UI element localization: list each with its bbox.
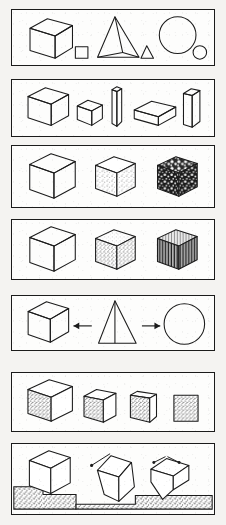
cube-step-3 bbox=[130, 391, 156, 422]
mottled-cube bbox=[158, 157, 198, 197]
panel-2 bbox=[11, 79, 215, 137]
panel-6 bbox=[11, 372, 215, 432]
upright-plate bbox=[183, 89, 199, 128]
small-circle bbox=[193, 46, 207, 60]
panel-7 bbox=[11, 443, 215, 515]
plain-cube bbox=[30, 227, 75, 271]
striated-cube bbox=[157, 230, 197, 270]
cube-step-4 bbox=[174, 395, 198, 421]
small-cube bbox=[77, 100, 102, 125]
panel-2-artwork bbox=[12, 80, 214, 136]
right-arrow bbox=[142, 323, 160, 330]
plain-cube bbox=[30, 154, 76, 199]
panel-7-artwork bbox=[12, 444, 214, 514]
cube-step-1 bbox=[28, 380, 72, 422]
pyramid bbox=[98, 17, 139, 58]
small-triangle bbox=[141, 46, 154, 59]
panel-5 bbox=[11, 295, 215, 351]
circle bbox=[164, 304, 205, 345]
large-cube bbox=[28, 88, 69, 126]
small-square bbox=[75, 47, 88, 59]
speckled-cube bbox=[96, 157, 136, 197]
large-cube bbox=[30, 19, 72, 59]
resting-cube bbox=[29, 451, 70, 494]
panel-6-artwork bbox=[12, 373, 214, 431]
panel-5-artwork bbox=[12, 296, 214, 350]
large-circle bbox=[159, 17, 196, 54]
pyramid bbox=[99, 301, 137, 343]
left-arrow bbox=[73, 323, 91, 330]
panel-4-artwork bbox=[12, 220, 214, 279]
ground-right bbox=[76, 496, 212, 510]
tilted-cube bbox=[97, 456, 134, 502]
cube bbox=[28, 302, 68, 343]
panel-4 bbox=[11, 219, 215, 280]
panel-1-artwork bbox=[12, 10, 214, 65]
balanced-cube bbox=[151, 459, 189, 500]
thin-column bbox=[112, 87, 122, 127]
panel-1 bbox=[11, 9, 215, 66]
panel-3-artwork bbox=[12, 146, 214, 207]
panel-3 bbox=[11, 145, 215, 208]
figure-sheet bbox=[0, 0, 226, 525]
grainy-cube bbox=[96, 230, 136, 270]
flat-slab bbox=[134, 101, 176, 125]
cube-step-2 bbox=[84, 389, 116, 422]
